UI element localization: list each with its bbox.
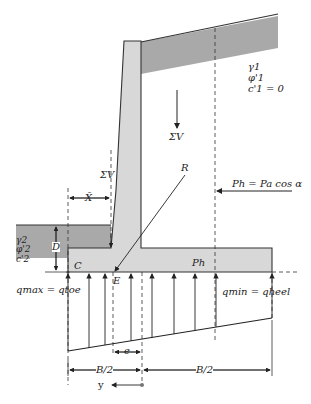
- label-qmin: qmin = qheel: [222, 287, 290, 297]
- label-r: R: [181, 163, 189, 173]
- label-gamma1: γ1: [248, 62, 260, 72]
- label-c2: c'2: [16, 255, 29, 264]
- label-ph-inner: Ph: [192, 258, 205, 268]
- label-phi1: φ'1: [248, 73, 264, 83]
- label-d: D: [52, 242, 60, 252]
- label-c1: c'1 = 0: [248, 84, 284, 94]
- label-eccentricity: e: [124, 346, 130, 356]
- label-b2-left: B/2: [96, 365, 113, 375]
- label-c: C: [74, 261, 82, 271]
- retaining-wall-diagram: [0, 0, 311, 404]
- label-sum-v-top: ΣV: [169, 132, 183, 142]
- label-phi2: φ'2: [16, 245, 31, 254]
- label-e-point: E: [113, 276, 120, 286]
- label-x-bar: X̄: [85, 193, 92, 203]
- label-y-axis: y: [98, 380, 104, 390]
- label-b2-right: B/2: [196, 365, 213, 375]
- label-ph-eq: Ph = Pa cos α: [232, 179, 302, 189]
- label-sum-v-left: ΣV: [100, 170, 114, 180]
- label-qmax: qmax = qtoe: [16, 285, 81, 295]
